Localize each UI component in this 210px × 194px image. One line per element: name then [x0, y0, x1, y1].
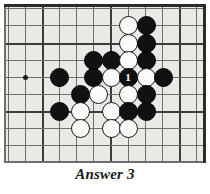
- stone-label: [72, 120, 89, 137]
- stone-label: [138, 52, 155, 69]
- stone-white[interactable]: [119, 119, 138, 138]
- stone-white[interactable]: [102, 119, 121, 138]
- stone-label: [138, 103, 155, 120]
- stone-label: [138, 69, 155, 86]
- stone-label: [120, 120, 137, 137]
- stone-label: [120, 103, 137, 120]
- stone-label: [138, 35, 155, 52]
- stone-label: [155, 69, 172, 86]
- stone-label: [72, 86, 89, 103]
- stone-black[interactable]: [154, 68, 173, 87]
- stone-black[interactable]: [137, 102, 156, 121]
- stone-white[interactable]: [119, 16, 138, 35]
- go-board[interactable]: 1: [4, 4, 206, 163]
- stone-black[interactable]: [84, 68, 103, 87]
- stone-label: [103, 120, 120, 137]
- stone-label: [51, 103, 68, 120]
- stone-black[interactable]: [119, 102, 138, 121]
- stone-white[interactable]: [119, 85, 138, 104]
- stone-label: [138, 17, 155, 34]
- stone-white[interactable]: [71, 102, 90, 121]
- stone-label: [103, 69, 120, 86]
- stone-label: [138, 86, 155, 103]
- figure-caption: Answer 3: [0, 166, 210, 183]
- stone-white[interactable]: [119, 34, 138, 53]
- go-problem-figure: 1 Answer 3: [0, 0, 210, 194]
- stone-white[interactable]: [71, 119, 90, 138]
- stone-white[interactable]: [89, 85, 108, 104]
- stone-black[interactable]: [50, 68, 69, 87]
- stone-white[interactable]: [119, 51, 138, 70]
- stone-label: [120, 86, 137, 103]
- board-border-bottom: [4, 161, 206, 163]
- stone-black[interactable]: [137, 16, 156, 35]
- stone-label: [51, 69, 68, 86]
- stone-layer: 1: [4, 4, 206, 163]
- stone-black[interactable]: [50, 102, 69, 121]
- board-border-left: [4, 4, 6, 163]
- stone-black[interactable]: [137, 85, 156, 104]
- stone-label: [103, 52, 120, 69]
- stone-black[interactable]: [137, 51, 156, 70]
- stone-label: [90, 86, 107, 103]
- stone-white[interactable]: [102, 102, 121, 121]
- stone-label: [120, 52, 137, 69]
- stone-black[interactable]: [84, 51, 103, 70]
- stone-black[interactable]: [137, 34, 156, 53]
- board-border-right: [203, 4, 206, 163]
- stone-label: [85, 52, 102, 69]
- stone-label: [120, 17, 137, 34]
- stone-white[interactable]: [102, 68, 121, 87]
- stone-move-1[interactable]: 1: [119, 68, 138, 87]
- stone-label: [85, 69, 102, 86]
- stone-label: [103, 103, 120, 120]
- stone-black[interactable]: [102, 51, 121, 70]
- stone-black[interactable]: [71, 85, 90, 104]
- board-border-top: [4, 4, 206, 7]
- stone-label: [72, 103, 89, 120]
- stone-label: [120, 35, 137, 52]
- stone-label: 1: [120, 69, 137, 86]
- stone-white[interactable]: [137, 68, 156, 87]
